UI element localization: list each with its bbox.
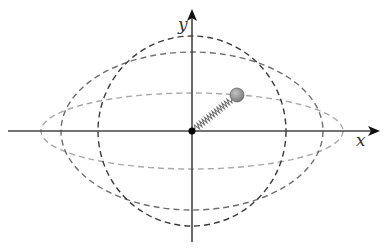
spring-mass-diagram: x y: [0, 0, 385, 251]
spring: [190, 94, 237, 133]
mass-ball: [230, 88, 244, 102]
origin-point: [189, 128, 196, 135]
y-axis-label: y: [177, 14, 188, 34]
x-axis-label: x: [356, 130, 366, 150]
